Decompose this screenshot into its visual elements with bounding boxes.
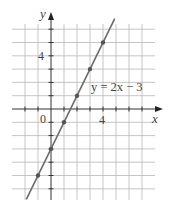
origin-label: 0 bbox=[40, 112, 46, 126]
data-point bbox=[101, 40, 105, 44]
graph-canvas: y x 0 4 4 y = 2x − 3 bbox=[0, 0, 170, 210]
equation-text: y = 2x − 3 bbox=[91, 80, 143, 94]
x-tick-label-4: 4 bbox=[99, 113, 105, 127]
data-point bbox=[62, 120, 66, 124]
data-point bbox=[75, 94, 79, 98]
equation-label: y = 2x − 3 bbox=[91, 80, 143, 94]
y-axis-label: y bbox=[38, 6, 46, 21]
data-point bbox=[49, 147, 53, 151]
y-axis-arrow-icon bbox=[48, 12, 54, 20]
axes bbox=[12, 12, 163, 200]
y-tick-label-4: 4 bbox=[38, 49, 44, 63]
grid-lines bbox=[12, 24, 155, 200]
data-point bbox=[36, 173, 40, 177]
x-axis-label: x bbox=[151, 111, 158, 126]
data-point bbox=[88, 67, 92, 71]
